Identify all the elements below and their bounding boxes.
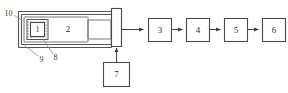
block-3[interactable]: 3 xyxy=(149,19,172,42)
block-4-label: 4 xyxy=(196,25,201,35)
block-7-label: 7 xyxy=(114,69,119,79)
window-plate xyxy=(112,9,122,47)
block-7[interactable]: 7 xyxy=(104,63,130,87)
leader-8 xyxy=(43,39,53,54)
block-6-label: 6 xyxy=(272,25,277,35)
sample-label: 1 xyxy=(36,25,40,34)
sample-holder-label: 8 xyxy=(54,53,58,62)
sample-element: 1 xyxy=(31,23,45,37)
inner-wall-label: 9 xyxy=(40,55,44,64)
block-4[interactable]: 4 xyxy=(187,19,210,42)
figure-canvas: 1 2 10 9 8 xyxy=(0,0,288,93)
cavity-label: 2 xyxy=(66,24,71,34)
chamber-right-section xyxy=(88,20,111,39)
block-6[interactable]: 6 xyxy=(263,19,286,42)
block-5[interactable]: 5 xyxy=(225,19,248,42)
block-3-label: 3 xyxy=(158,25,163,35)
block-5-label: 5 xyxy=(234,25,239,35)
outer-wall-label: 10 xyxy=(5,9,13,18)
